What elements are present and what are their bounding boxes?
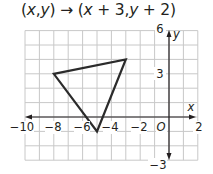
x-tick-neg6: −6	[74, 120, 91, 134]
y-axis-down-arrow-icon	[167, 153, 172, 160]
origin-label: O	[156, 120, 165, 134]
x-axis-right-arrow-icon	[189, 115, 196, 120]
x-tick-neg2: −2	[131, 120, 148, 134]
y-tick-3: 3	[156, 67, 163, 81]
x-tick-neg8: −8	[45, 120, 62, 134]
y-tick-neg3: −3	[150, 158, 167, 172]
x-tick-2: 2	[195, 120, 202, 134]
y-tick-6: 6	[156, 22, 163, 36]
y-axis-label: y	[172, 27, 180, 41]
x-axis-left-arrow-icon	[25, 115, 32, 120]
y-axis	[167, 30, 172, 160]
x-axis-label: x	[187, 100, 195, 114]
coordinate-plane: 6 y 3 −3 x −10 −8 −6 −4 −2 O 2	[0, 0, 213, 174]
x-tick-neg10: −10	[10, 120, 34, 134]
x-tick-neg4: −4	[102, 120, 119, 134]
x-axis	[25, 115, 196, 120]
